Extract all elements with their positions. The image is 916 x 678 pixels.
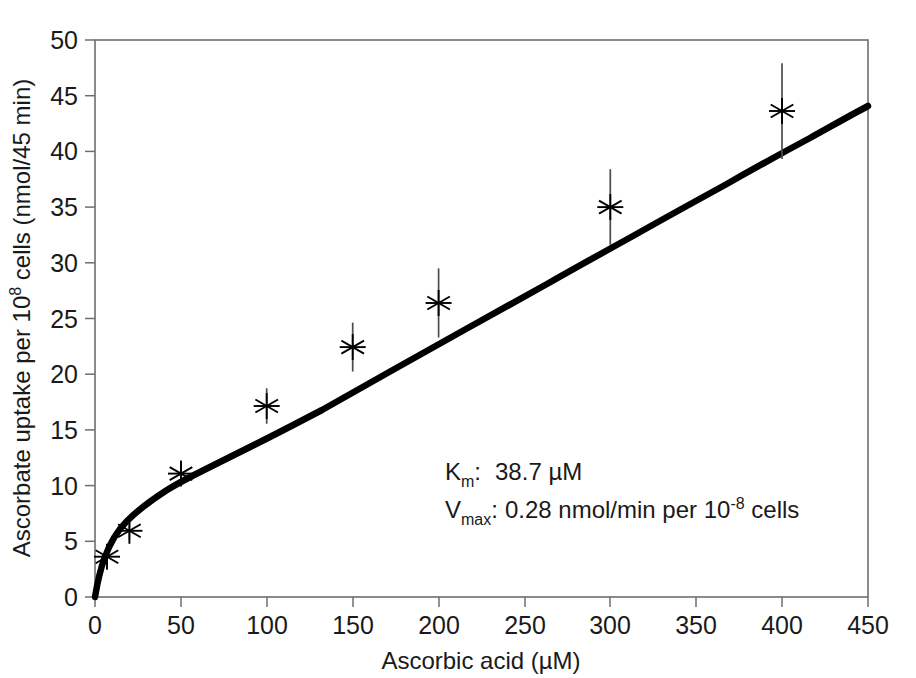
y-tick-group-5: 25 bbox=[50, 305, 95, 333]
x-tick-label: 100 bbox=[246, 611, 288, 639]
km-symbol: K bbox=[445, 458, 461, 485]
y-axis: 0 5 10 15 20 25 bbox=[50, 26, 95, 611]
y-tick-label: 50 bbox=[50, 26, 78, 54]
y-axis-title: Ascorbate uptake per 108 cells (nmol/45 … bbox=[7, 79, 35, 557]
y-axis-title-lead: Ascorbate uptake per 10 bbox=[8, 296, 35, 558]
y-tick-group-2: 10 bbox=[50, 472, 95, 500]
x-tick-group-3: 150 bbox=[332, 597, 374, 639]
x-axis: 0 50 100 150 200 250 bbox=[88, 597, 889, 639]
asterisk-marker bbox=[116, 518, 142, 544]
y-tick-label: 40 bbox=[50, 137, 78, 165]
x-tick-group-5: 250 bbox=[504, 597, 546, 639]
x-tick-label: 250 bbox=[504, 611, 546, 639]
x-tick-group-8: 400 bbox=[761, 597, 803, 639]
x-tick-label: 0 bbox=[88, 611, 102, 639]
data-point bbox=[116, 518, 142, 544]
x-tick-group-4: 200 bbox=[418, 597, 460, 639]
y-tick-label: 15 bbox=[50, 416, 78, 444]
y-tick-group-9: 45 bbox=[50, 82, 95, 110]
km-value: 38.7 µM bbox=[495, 458, 582, 485]
x-tick-label: 400 bbox=[761, 611, 803, 639]
y-tick-group-6: 30 bbox=[50, 249, 95, 277]
vmax-annotation: Vmax:0.28 nmol/min per 10-8 cells bbox=[445, 495, 799, 528]
y-tick-label: 20 bbox=[50, 360, 78, 388]
x-tick-group-1: 50 bbox=[167, 597, 195, 639]
data-point bbox=[168, 461, 194, 487]
asterisk-marker bbox=[340, 334, 366, 360]
vmax-separator: : bbox=[491, 496, 498, 523]
y-tick-label: 5 bbox=[64, 527, 78, 555]
vmax-value-lead: 0.28 nmol/min per 10 bbox=[505, 496, 730, 523]
y-tick-label: 10 bbox=[50, 472, 78, 500]
y-tick-label: 30 bbox=[50, 249, 78, 277]
vmax-symbol: V bbox=[445, 496, 461, 523]
x-tick-label: 450 bbox=[847, 611, 889, 639]
data-point bbox=[254, 388, 280, 424]
chart-svg: 0 50 100 150 200 250 bbox=[0, 0, 916, 678]
data-point bbox=[94, 544, 120, 570]
x-tick-group-6: 300 bbox=[589, 597, 631, 639]
y-axis-title-superscript: 8 bbox=[7, 287, 24, 296]
y-tick-group-3: 15 bbox=[50, 416, 95, 444]
data-point bbox=[597, 169, 623, 245]
data-point bbox=[426, 268, 452, 337]
x-tick-label: 200 bbox=[418, 611, 460, 639]
x-tick-label: 150 bbox=[332, 611, 374, 639]
km-separator: : bbox=[474, 458, 481, 485]
x-tick-label: 300 bbox=[589, 611, 631, 639]
asterisk-marker bbox=[597, 194, 623, 220]
asterisk-marker bbox=[168, 461, 194, 487]
x-tick-group-0: 0 bbox=[88, 597, 102, 639]
vmax-value-superscript: -8 bbox=[730, 495, 744, 512]
y-tick-label: 45 bbox=[50, 82, 78, 110]
x-tick-group-7: 350 bbox=[675, 597, 717, 639]
y-tick-group-4: 20 bbox=[50, 360, 95, 388]
data-series bbox=[94, 63, 795, 570]
x-axis-title: Ascorbic acid (µM) bbox=[381, 647, 580, 674]
y-tick-group-0: 0 bbox=[64, 583, 95, 611]
asterisk-marker bbox=[769, 98, 795, 124]
y-tick-group-1: 5 bbox=[64, 527, 95, 555]
asterisk-marker bbox=[254, 393, 280, 419]
km-subscript: m bbox=[461, 473, 474, 490]
y-tick-label: 35 bbox=[50, 193, 78, 221]
vmax-subscript: max bbox=[461, 511, 491, 528]
y-tick-group-7: 35 bbox=[50, 193, 95, 221]
y-tick-group-10: 50 bbox=[50, 26, 95, 54]
x-tick-group-2: 100 bbox=[246, 597, 288, 639]
asterisk-marker bbox=[426, 290, 452, 316]
y-tick-group-8: 40 bbox=[50, 137, 95, 165]
data-point bbox=[340, 323, 366, 372]
x-tick-label: 350 bbox=[675, 611, 717, 639]
asterisk-marker bbox=[94, 544, 120, 570]
kinetics-annotation: Km:38.7 µM Vmax:0.28 nmol/min per 10-8 c… bbox=[445, 458, 799, 528]
y-axis-title-trail: cells (nmol/45 min) bbox=[8, 79, 35, 287]
vmax-value-trail: cells bbox=[745, 496, 800, 523]
figure-container: 0 50 100 150 200 250 bbox=[0, 0, 916, 678]
y-tick-label: 25 bbox=[50, 305, 78, 333]
y-tick-label: 0 bbox=[64, 583, 78, 611]
km-annotation: Km:38.7 µM bbox=[445, 458, 582, 490]
x-tick-label: 50 bbox=[167, 611, 195, 639]
x-tick-group-9: 450 bbox=[847, 597, 889, 639]
